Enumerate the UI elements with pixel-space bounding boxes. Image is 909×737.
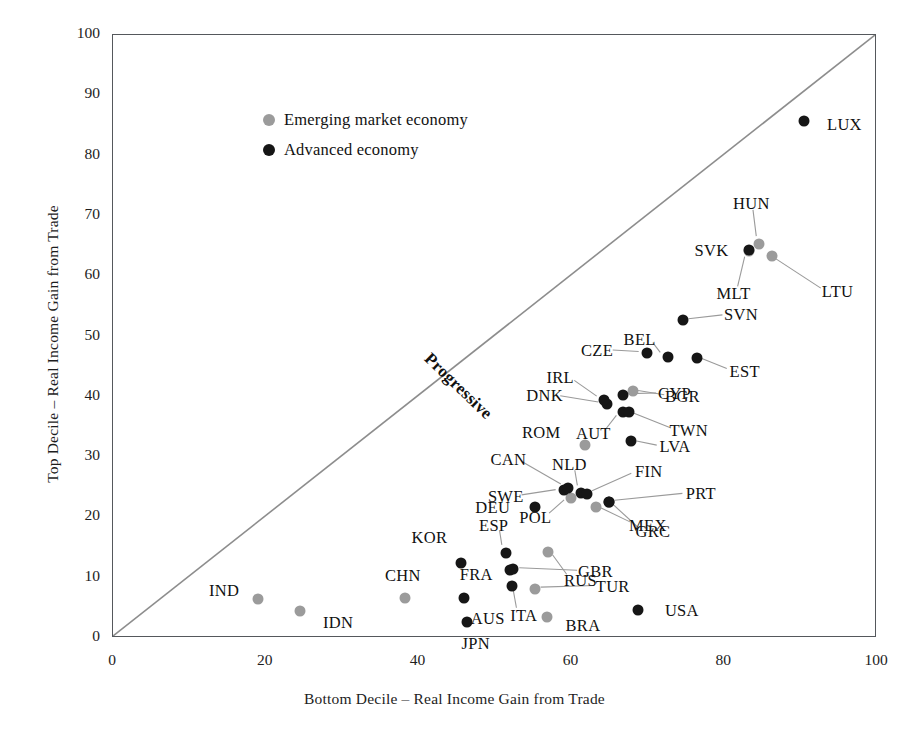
data-label-mlt: MLT	[717, 284, 751, 304]
leader-line-prt	[614, 493, 682, 500]
data-label-twn: TWN	[669, 421, 707, 441]
leader-line-swe	[522, 490, 556, 495]
data-label-esp: ESP	[479, 516, 508, 536]
data-point-ltu[interactable]	[766, 251, 777, 262]
leader-line-mex	[601, 508, 630, 522]
x-tick-label-60: 60	[545, 651, 595, 669]
data-label-aus: AUS	[471, 609, 505, 629]
scatter-chart-figure: Top Decile – Real Income Gain from Trade…	[0, 0, 909, 737]
leader-line-hun	[753, 210, 756, 236]
legend-item-emerging[interactable]: Emerging market economy	[263, 105, 468, 135]
data-label-idn: IDN	[323, 613, 353, 633]
y-tick-label-10: 10	[54, 567, 100, 585]
y-tick-label-100: 100	[54, 24, 100, 42]
y-tick-label-90: 90	[54, 84, 100, 102]
y-tick-label-0: 0	[54, 627, 100, 645]
data-label-bel: BEL	[624, 330, 656, 350]
data-label-jpn: JPN	[462, 634, 490, 654]
data-point-prt[interactable]	[603, 497, 614, 508]
data-point-svn[interactable]	[677, 315, 688, 326]
data-point-usa[interactable]	[632, 604, 643, 615]
data-label-chn: CHN	[385, 566, 421, 586]
label-leader-lines	[113, 35, 875, 636]
leader-line-lva	[637, 441, 657, 445]
data-point-irl[interactable]	[599, 395, 610, 406]
leader-line-dnk	[560, 396, 598, 402]
data-point-twn[interactable]	[623, 407, 634, 418]
data-point-bgr[interactable]	[627, 385, 638, 396]
progressive-annotation: Progressive	[420, 349, 496, 424]
data-label-gbr: GBR	[578, 562, 613, 582]
data-label-kor: KOR	[412, 528, 448, 548]
chart-legend: Emerging market economyAdvanced economy	[263, 105, 468, 165]
circle-black-icon	[263, 144, 275, 156]
data-label-grc: GRC	[635, 522, 670, 542]
data-label-ind: IND	[209, 581, 239, 601]
y-tick-label-80: 80	[54, 145, 100, 163]
leader-line-cze	[613, 350, 639, 351]
data-label-hun: HUN	[733, 194, 770, 214]
data-point-chn[interactable]	[399, 593, 410, 604]
data-label-irl: IRL	[547, 368, 574, 388]
data-point-esp[interactable]	[500, 547, 511, 558]
data-point-cyp[interactable]	[617, 389, 628, 400]
y-tick-label-50: 50	[54, 326, 100, 344]
data-point-fin[interactable]	[581, 489, 592, 500]
y-tick-label-20: 20	[54, 506, 100, 524]
legend-label: Advanced economy	[284, 140, 419, 160]
leader-line-mlt	[738, 257, 745, 287]
data-label-usa: USA	[665, 601, 699, 621]
data-label-svn: SVN	[724, 305, 758, 325]
y-tick-label-60: 60	[54, 265, 100, 283]
data-point-aus[interactable]	[458, 593, 469, 604]
x-tick-label-0: 0	[87, 651, 137, 669]
data-label-est: EST	[730, 362, 760, 382]
data-point-gbr[interactable]	[508, 564, 519, 575]
data-label-swe: SWE	[488, 487, 524, 507]
data-point-bel[interactable]	[662, 352, 673, 363]
data-point-ind[interactable]	[253, 593, 264, 604]
leader-line-ltu	[776, 259, 821, 288]
x-tick-label-40: 40	[393, 651, 443, 669]
data-label-fin: FIN	[635, 462, 663, 482]
x-tick-label-20: 20	[240, 651, 290, 669]
data-label-prt: PRT	[686, 484, 716, 504]
data-point-est[interactable]	[691, 352, 702, 363]
data-label-aut: AUT	[576, 424, 611, 444]
leader-line-est	[702, 358, 727, 368]
legend-item-advanced[interactable]: Advanced economy	[263, 135, 468, 165]
data-label-fra: FRA	[460, 565, 493, 585]
data-label-nld: NLD	[552, 455, 587, 475]
data-point-bra[interactable]	[541, 611, 552, 622]
legend-label: Emerging market economy	[284, 110, 468, 130]
data-point-deu[interactable]	[529, 502, 540, 513]
data-point-lux[interactable]	[799, 115, 810, 126]
leader-line-svn	[688, 315, 722, 319]
data-point-mex[interactable]	[590, 502, 601, 513]
circle-grey-icon	[263, 114, 275, 126]
y-tick-label-40: 40	[54, 386, 100, 404]
x-axis-title: Bottom Decile – Real Income Gain from Tr…	[0, 690, 909, 708]
x-tick-label-100: 100	[851, 651, 901, 669]
data-label-rom: ROM	[522, 423, 561, 443]
data-point-svk[interactable]	[744, 244, 755, 255]
data-label-dnk: DNK	[526, 386, 563, 406]
data-label-lux: LUX	[827, 115, 862, 135]
data-label-ltu: LTU	[822, 282, 853, 302]
y-tick-label-30: 30	[54, 446, 100, 464]
data-point-tur[interactable]	[529, 584, 540, 595]
reference-line-45-degree	[113, 35, 875, 636]
data-point-hun[interactable]	[754, 238, 765, 249]
data-label-bra: BRA	[566, 616, 601, 636]
data-label-cyp: CYP	[658, 384, 691, 404]
data-label-svk: SVK	[694, 241, 728, 261]
data-point-lva[interactable]	[625, 436, 636, 447]
plot-area: Progressive INDIDNCHNBRATURRUSMEXPOLROMB…	[112, 34, 876, 637]
data-point-rus[interactable]	[543, 546, 554, 557]
data-point-idn[interactable]	[295, 606, 306, 617]
leader-line-irl	[574, 380, 596, 396]
data-point-can[interactable]	[563, 483, 574, 494]
data-label-can: CAN	[490, 450, 526, 470]
data-point-ita[interactable]	[506, 581, 517, 592]
y-tick-label-70: 70	[54, 205, 100, 223]
